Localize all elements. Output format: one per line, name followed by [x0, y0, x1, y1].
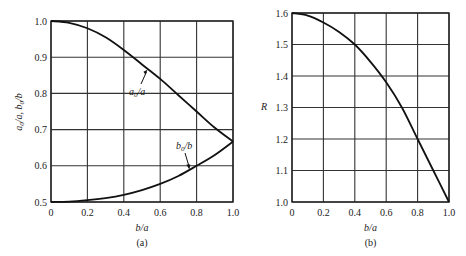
panel-caption: (a): [136, 237, 147, 249]
annotation-b0-b: b0/b: [176, 140, 192, 153]
y-tick-label: 1.3: [276, 102, 289, 113]
x-tick-labels: 00.20.40.60.81.0: [290, 207, 456, 218]
y-tick-label: 1.5: [276, 39, 289, 50]
x-tick-label: 0: [290, 207, 295, 218]
arrow-head-icon: [143, 70, 147, 75]
grid-lines: [51, 21, 233, 202]
y-tick-label: 1.6: [276, 8, 289, 19]
x-tick-label: 0.8: [190, 207, 203, 218]
x-tick-labels: 00.20.40.60.81.0: [49, 207, 240, 218]
x-tick-label: 0.4: [118, 207, 131, 218]
x-axis-label: b/a: [136, 222, 149, 233]
x-tick-label: 0.4: [349, 207, 362, 218]
series-line-b0-b: [51, 142, 233, 202]
y-tick-label: 0.6: [35, 160, 48, 171]
y-tick-label: 1.0: [35, 16, 48, 27]
figure: 00.20.40.60.81.00.50.60.70.80.91.0b/a(a)…: [0, 0, 466, 256]
x-tick-label: 0.2: [81, 207, 94, 218]
y-tick-label: 0.8: [35, 88, 48, 99]
x-tick-label: 0.6: [154, 207, 167, 218]
y-tick-label: 0.7: [35, 124, 48, 135]
y-tick-label: 1.1: [276, 165, 289, 176]
y-tick-labels: 1.01.11.21.31.41.51.6: [276, 8, 289, 208]
y-tick-label: 1.4: [276, 71, 289, 82]
x-tick-label: 1.0: [443, 207, 456, 218]
panel-b-chart: 00.20.40.60.81.01.01.11.21.31.41.51.6b/a…: [260, 8, 455, 250]
x-tick-label: 0.8: [411, 207, 424, 218]
y-axis-label: a0/a, b0/b: [13, 93, 26, 131]
plot-frame: [51, 21, 233, 202]
y-tick-label: 1.2: [276, 134, 289, 145]
y-tick-label: 1.0: [276, 197, 289, 208]
y-tick-label: 0.9: [35, 52, 48, 63]
panel-a-chart: 00.20.40.60.81.00.50.60.70.80.91.0b/a(a)…: [13, 16, 239, 250]
x-tick-label: 1.0: [227, 207, 240, 218]
panel-caption: (b): [365, 237, 377, 249]
grid-lines: [292, 13, 449, 202]
x-tick-label: 0.2: [317, 207, 330, 218]
y-axis-label: R: [260, 101, 267, 112]
arrow-head-icon: [186, 164, 190, 169]
x-tick-label: 0.6: [380, 207, 393, 218]
x-axis-label: b/a: [364, 222, 377, 233]
x-tick-label: 0: [49, 207, 54, 218]
y-tick-labels: 0.50.60.70.80.91.0: [35, 16, 48, 208]
annotation-a0-a: a0/a: [129, 86, 145, 99]
y-tick-label: 0.5: [35, 197, 48, 208]
